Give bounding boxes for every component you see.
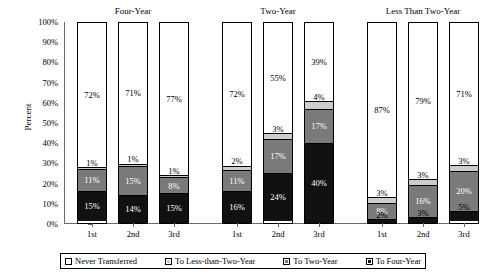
bar-segment-label: 15% <box>166 204 182 213</box>
bar-segment: 71% <box>450 23 478 165</box>
group-title: Two-Year <box>218 6 338 16</box>
bar-segment: 77% <box>160 23 188 175</box>
stacked-bar-chart: Percent 100%90%80%70%60%50%40%30%20%10%0… <box>0 0 480 280</box>
bar-segment-label: 72% <box>84 91 100 100</box>
x-axis-tick-label: 3rd <box>154 229 194 239</box>
bar-segment-label: 8% <box>168 182 179 191</box>
bar-segment-label: 3% <box>272 125 283 134</box>
bar-segment-label: 5% <box>458 203 469 212</box>
bar-segment-label: 71% <box>125 89 141 98</box>
legend-item[interactable]: To Four-Year <box>366 256 421 266</box>
bar-segment-label: 11% <box>229 177 244 186</box>
bar-segment-label: 24% <box>270 193 286 202</box>
bar-segment-label: 15% <box>84 202 100 211</box>
legend-item[interactable]: To Two-Year <box>283 256 337 266</box>
bar-segment-label: 17% <box>270 152 286 161</box>
legend-swatch-icon <box>165 258 172 265</box>
x-axis-tick-label: 3rd <box>299 229 339 239</box>
legend-label: To Four-Year <box>376 256 421 266</box>
bar-two-year-2nd[interactable]: 55%3%17%24% <box>263 22 293 224</box>
bar-segment: 72% <box>223 23 251 166</box>
bar-segment: 4% <box>305 101 333 109</box>
y-axis-tick-label: 40% <box>42 139 58 148</box>
bar-two-year-1st[interactable]: 72%2%11%16% <box>222 22 252 224</box>
bar-segment-label: 3% <box>458 157 469 166</box>
x-axis-tick-label: 1st <box>362 229 402 239</box>
group-title: Less Than Two-Year <box>363 6 480 16</box>
y-axis-tick-label: 60% <box>42 99 58 108</box>
y-axis-ticks: 100%90%80%70%60%50%40%30%20%10%0% <box>24 22 64 224</box>
bar-segment-label: 1% <box>86 159 97 168</box>
y-axis-tick-label: 10% <box>42 200 58 209</box>
bar-segment-label: 14% <box>125 205 141 214</box>
bar-segment-label: 87% <box>374 106 390 115</box>
bar-segment-label: 16% <box>229 203 245 212</box>
bar-segment-label: 11% <box>84 176 99 185</box>
legend-swatch-icon <box>65 258 72 265</box>
x-axis-tick-mark <box>92 223 93 227</box>
bar-segment: 8% <box>160 177 188 193</box>
legend-label: Never Transferred <box>75 256 137 266</box>
bar-segment: 87% <box>368 23 396 197</box>
x-axis-tick-label: 3rd <box>444 229 480 239</box>
bar-segment: 17% <box>305 109 333 143</box>
y-axis-tick-label: 80% <box>42 58 58 67</box>
legend-item[interactable]: Never Transferred <box>65 256 137 266</box>
x-axis-tick-label: 1st <box>217 229 257 239</box>
bar-segment: 14% <box>119 195 147 223</box>
bar-segment-label: 3% <box>417 171 428 180</box>
bar-segment: 79% <box>409 23 437 179</box>
group-title: Four-Year <box>73 6 193 16</box>
bar-segment-label: 40% <box>311 179 327 188</box>
bar-segment: 71% <box>119 23 147 164</box>
legend-item[interactable]: To Less-than-Two-Year <box>165 256 255 266</box>
bar-segment: 17% <box>264 139 292 173</box>
bar-less-than-two-year-1st[interactable]: 87%3%8%2% <box>367 22 397 224</box>
bar-four-year-3rd[interactable]: 77%1%8%15% <box>159 22 189 224</box>
y-axis-tick-label: 100% <box>38 18 58 27</box>
y-axis-tick-label: 90% <box>42 38 58 47</box>
x-axis-tick-mark <box>319 223 320 227</box>
bar-four-year-2nd[interactable]: 71%1%15%14% <box>118 22 148 224</box>
bar-four-year-1st[interactable]: 72%1%11%15% <box>77 22 107 224</box>
bar-segment: 16% <box>223 191 251 223</box>
bar-segment: 15% <box>119 166 147 196</box>
y-axis-tick-label: 30% <box>42 159 58 168</box>
bar-two-year-3rd[interactable]: 39%4%17%40% <box>304 22 334 224</box>
bar-segment: 11% <box>223 170 251 192</box>
x-axis-tick-mark <box>133 223 134 227</box>
bar-segment: 5% <box>450 211 478 221</box>
bar-segment-label: 17% <box>311 122 327 131</box>
bar-segment: 72% <box>78 23 106 167</box>
bar-segment-label: 2% <box>231 157 242 166</box>
legend-swatch-icon <box>283 258 290 265</box>
y-axis-tick-label: 50% <box>42 119 58 128</box>
legend-swatch-icon <box>366 258 373 265</box>
y-axis-tick-label: 20% <box>42 179 58 188</box>
bar-segment-label: 20% <box>456 187 472 196</box>
chart-legend: Never TransferredTo Less-than-Two-YearTo… <box>60 253 426 269</box>
bar-segment: 55% <box>264 23 292 133</box>
x-axis-tick-mark <box>278 223 279 227</box>
x-axis-tick-mark <box>237 223 238 227</box>
bar-segment: 40% <box>305 143 333 223</box>
bar-segment-label: 3% <box>376 189 387 198</box>
bar-segment-label: 2% <box>376 211 387 220</box>
bar-segment-label: 71% <box>456 90 472 99</box>
bar-segment: 39% <box>305 23 333 101</box>
y-axis-tick-label: 0% <box>47 220 58 229</box>
legend-label: To Two-Year <box>293 256 337 266</box>
x-axis-tick-mark <box>174 223 175 227</box>
x-axis-tick-label: 2nd <box>113 229 153 239</box>
bar-less-than-two-year-3rd[interactable]: 71%3%20%5% <box>449 22 479 224</box>
x-axis-tick-label: 2nd <box>258 229 298 239</box>
bar-segment: 15% <box>160 193 188 223</box>
x-axis-tick-mark <box>382 223 383 227</box>
bar-segment-label: 1% <box>127 155 138 164</box>
bar-segment-label: 77% <box>166 95 182 104</box>
bar-segment-label: 39% <box>311 58 327 67</box>
bar-segment: 15% <box>78 191 106 221</box>
y-axis-tick-label: 70% <box>42 78 58 87</box>
bar-less-than-two-year-2nd[interactable]: 79%3%16%3% <box>408 22 438 224</box>
bar-segment-label: 79% <box>415 97 431 106</box>
